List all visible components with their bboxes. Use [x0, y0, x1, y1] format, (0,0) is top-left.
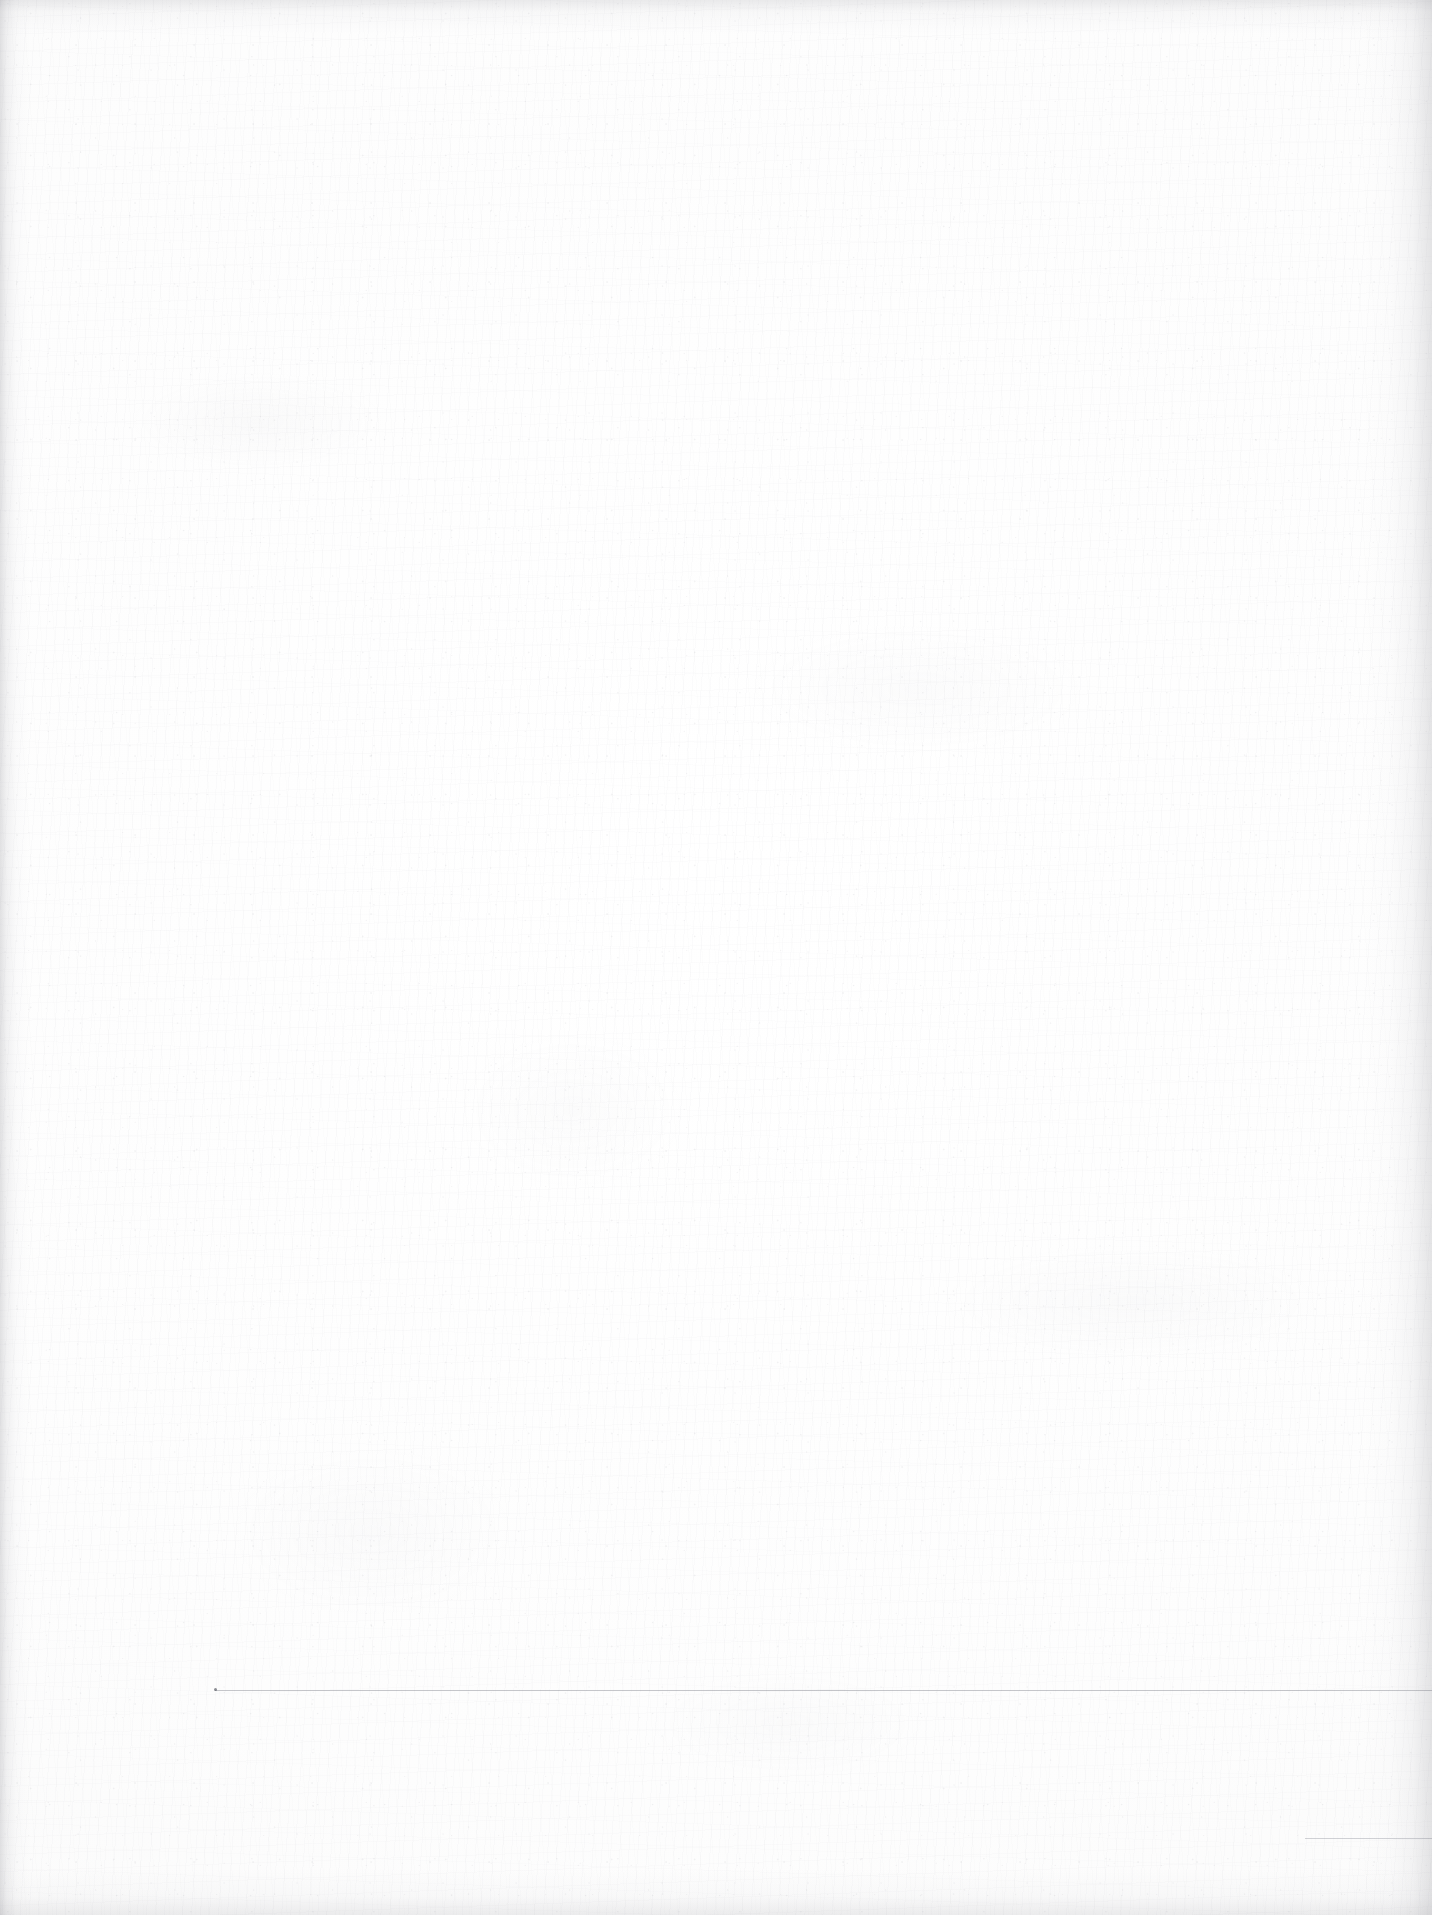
lower-horizontal-rule-dot — [214, 1688, 217, 1691]
page-content-area — [0, 0, 1432, 1915]
bottom-right-horizontal-rule — [1305, 1838, 1432, 1839]
lower-horizontal-rule — [215, 1690, 1432, 1691]
scanned-page — [0, 0, 1432, 1915]
